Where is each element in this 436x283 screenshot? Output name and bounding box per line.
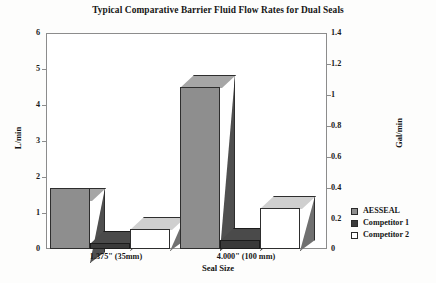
bar-competitor1-group2 (220, 0, 260, 249)
legend-swatch-icon-competitor1 (351, 220, 358, 227)
bar-aesseal-group1 (50, 0, 90, 249)
bar-front-face (130, 229, 170, 249)
legend-label-aesseal: AESSEAL (363, 207, 400, 215)
bar-front-face (260, 208, 300, 249)
bar-competitor1-group1 (90, 0, 130, 249)
x-category-label-2: 4.000" (100 mm) (186, 252, 306, 261)
bar-aesseal-group2 (180, 0, 220, 249)
bar-front-face (90, 243, 130, 249)
legend-label-competitor1: Competitor 1 (363, 219, 409, 227)
legend-swatch-icon-competitor2 (351, 232, 358, 239)
legend-item-aesseal: AESSEAL (351, 206, 409, 217)
legend-item-competitor2: Competitor 2 (351, 230, 409, 241)
legend-label-competitor2: Competitor 2 (363, 231, 409, 239)
chart-legend: AESSEAL Competitor 1 Competitor 2 (351, 206, 409, 242)
bar-chart: Typical Comparative Barrier Fluid Flow R… (0, 0, 436, 283)
bar-front-face (220, 240, 260, 249)
bar-competitor2-group1 (130, 0, 170, 249)
bar-competitor2-group2 (260, 0, 300, 249)
legend-item-competitor1: Competitor 1 (351, 218, 409, 229)
x-category-label-1: 1.375" (35mm) (56, 252, 176, 261)
legend-swatch-icon-aesseal (351, 208, 358, 215)
bar-front-face (180, 87, 220, 249)
bar-front-face (50, 188, 90, 249)
